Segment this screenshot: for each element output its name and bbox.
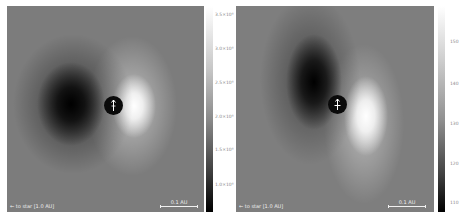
colorbar-tick: 140 xyxy=(450,81,459,86)
left-map-panel: ← to star [1.0 AU] 0.1 AU xyxy=(7,6,204,212)
colorbar-tick: 1.0×10⁸ xyxy=(215,182,233,187)
scale-bar-line xyxy=(388,206,426,207)
scale-bar: 0.1 AU xyxy=(388,199,426,207)
arrow-cross-icon xyxy=(328,95,347,114)
colorbar-tick: 110 xyxy=(450,200,459,205)
planet-marker xyxy=(328,95,347,114)
colorbar-tick: 120 xyxy=(450,161,459,166)
colorbar-tick: 150 xyxy=(450,39,459,44)
colorbar-tick: 3.5×10⁸ xyxy=(215,12,233,17)
colorbar-tick: 2.0×10⁸ xyxy=(215,114,233,119)
colorbar-tick: 3.0×10⁸ xyxy=(215,46,233,51)
colorbar-tick: 2.5×10⁸ xyxy=(215,80,233,85)
scale-bar-line xyxy=(160,206,198,207)
to-star-label: ← to star [1.0 AU] xyxy=(10,203,54,209)
arrow-up-icon xyxy=(104,96,123,115)
colorbar-tick: 130 xyxy=(450,121,459,126)
scale-label: 0.1 AU xyxy=(388,199,426,205)
right-map-panel: ← to star [1.0 AU] 0.1 AU xyxy=(236,6,434,212)
scale-bar: 0.1 AU xyxy=(160,199,198,207)
planet-marker xyxy=(104,96,123,115)
colorbar-tick: 1.5×10⁸ xyxy=(215,147,233,152)
scale-label: 0.1 AU xyxy=(160,199,198,205)
to-star-label: ← to star [1.0 AU] xyxy=(239,203,283,209)
right-colorbar xyxy=(438,6,445,212)
left-colorbar xyxy=(206,6,213,212)
